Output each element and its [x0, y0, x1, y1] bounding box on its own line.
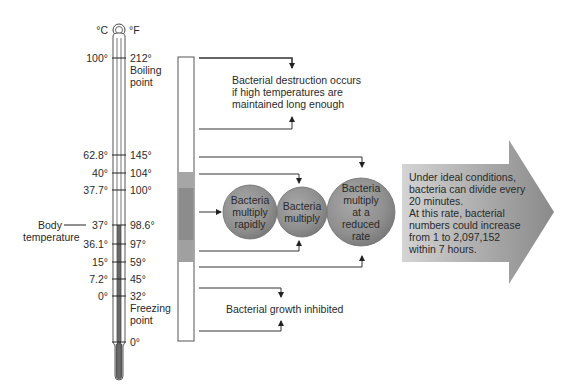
circle-label-line: multiply: [284, 212, 320, 224]
fahrenheit-label: 145°: [130, 149, 152, 161]
destruction-note-line: if high temperatures are: [232, 86, 343, 98]
destruction-note-line: Bacterial destruction occurs: [232, 74, 361, 86]
fahrenheit-label: 100°: [130, 184, 152, 196]
celsius-label: 100°: [86, 52, 108, 64]
circle-label-line: rapidly: [235, 218, 267, 230]
fahrenheit-unit-label: °F: [129, 24, 140, 36]
zone-segment-cool: [179, 240, 194, 262]
boiling-point-label: Boiling: [130, 64, 162, 76]
body-temperature-label: Body: [38, 219, 63, 231]
celsius-label: 37°: [92, 219, 108, 231]
fahrenheit-label: 97°: [130, 238, 146, 250]
circle-multiply-rapidly-label: Bacteria multiply rapidly: [231, 194, 270, 230]
fahrenheit-label: 98.6°: [130, 219, 155, 231]
circle-label-line: Bacteria: [342, 182, 381, 194]
zone-segment-optimal: [179, 188, 194, 240]
circle-multiply-label: Bacteria multiply: [283, 200, 322, 224]
callout-line: 20 minutes.: [409, 195, 463, 207]
fahrenheit-label: 212°: [130, 52, 152, 64]
circle-label-line: rate: [352, 230, 370, 242]
celsius-label: 36.1°: [83, 238, 108, 250]
fahrenheit-label: 59°: [130, 256, 146, 268]
circle-label-line: reduced: [342, 218, 380, 230]
celsius-label: 40°: [92, 167, 108, 179]
celsius-label: 7.2°: [89, 273, 108, 285]
circle-label-line: at a: [352, 206, 370, 218]
growth-inhibited-note: Bacterial growth inhibited: [226, 303, 343, 315]
mercury-column: [117, 225, 121, 345]
callout-line: At this rate, bacterial: [409, 207, 505, 219]
destruction-zone-note: Bacterial destruction occurs if high tem…: [232, 74, 361, 110]
body-temperature-label: temperature: [23, 231, 80, 243]
freezing-point-label: Freezing: [130, 302, 171, 314]
fahrenheit-label: 0°: [130, 336, 140, 348]
circle-label-line: Bacteria: [231, 194, 270, 206]
circle-label-line: multiply: [232, 206, 268, 218]
fahrenheit-label: 32°: [130, 290, 146, 302]
zone-segment-warm: [179, 172, 194, 188]
boiling-point-label: point: [130, 76, 153, 88]
circle-label-line: multiply: [343, 194, 379, 206]
callout-line: numbers could increase: [409, 219, 521, 231]
diagram-canvas: °C °F 100° 62.8° 40° 37.7° 37° 36.1° 15°…: [0, 0, 572, 389]
circle-label-line: Bacteria: [283, 200, 322, 212]
thermometer: °C °F 100° 62.8° 40° 37.7° 37° 36.1° 15°…: [23, 24, 171, 380]
callout-line: from 1 to 2,097,152: [409, 231, 500, 243]
fahrenheit-label: 45°: [130, 273, 146, 285]
celsius-unit-label: °C: [96, 24, 108, 36]
celsius-label: 37.7°: [83, 184, 108, 196]
callout-line: bacteria can divide every: [409, 183, 526, 195]
thermometer-bulb: [116, 344, 122, 379]
temperature-zone-bar: [178, 57, 194, 341]
freezing-point-label: point: [130, 314, 153, 326]
fahrenheit-label: 104°: [130, 167, 152, 179]
celsius-label: 15°: [92, 256, 108, 268]
callout-line: Under ideal conditions,: [409, 171, 516, 183]
celsius-label: 0°: [98, 290, 108, 302]
destruction-note-line: maintained long enough: [232, 98, 344, 110]
callout-line: within 7 hours.: [408, 243, 477, 255]
celsius-label: 62.8°: [83, 149, 108, 161]
